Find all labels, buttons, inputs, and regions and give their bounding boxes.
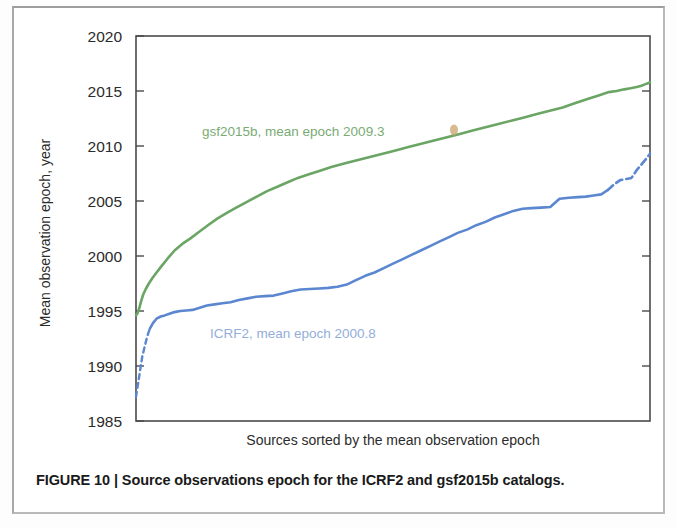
y-axis-ticks-left xyxy=(136,36,144,421)
y-tick-label-2015: 2015 xyxy=(88,83,122,100)
y-axis-ticks-right xyxy=(642,91,650,366)
epoch-line-chart: Mean observation epoch, year 2020 2015 2… xyxy=(14,8,663,458)
figure-caption-text: Source observations epoch for the ICRF2 … xyxy=(118,472,565,488)
figure-caption: FIGURE 10 | Source observations epoch fo… xyxy=(36,470,646,491)
chart-area: Mean observation epoch, year 2020 2015 2… xyxy=(14,8,663,458)
series-line-icrf2-dashed-tail xyxy=(608,154,650,190)
series-line-icrf2 xyxy=(150,190,608,329)
figure-caption-label: FIGURE 10 | xyxy=(36,472,118,488)
y-tick-label-2010: 2010 xyxy=(88,138,123,155)
series-line-icrf2-dashed-head xyxy=(136,329,150,397)
y-tick-label-2005: 2005 xyxy=(88,193,122,210)
plot-frame xyxy=(136,36,650,421)
series-line-gsf2015b xyxy=(136,82,650,315)
y-axis-title: Mean observation epoch, year xyxy=(37,138,53,327)
y-tick-label-1985: 1985 xyxy=(88,413,122,430)
icrf2-annotation: ICRF2, mean epoch 2000.8 xyxy=(210,326,376,341)
y-tick-labels: 2020 2015 2010 2005 2000 1995 1990 1985 xyxy=(88,28,123,430)
y-tick-label-1990: 1990 xyxy=(88,358,123,375)
figure-panel: Mean observation epoch, year 2020 2015 2… xyxy=(12,6,665,514)
gsf2015b-annotation: gsf2015b, mean epoch 2009.3 xyxy=(202,124,384,139)
scanned-page: Mean observation epoch, year 2020 2015 2… xyxy=(0,0,677,528)
x-axis-title: Sources sorted by the mean observation e… xyxy=(246,432,539,448)
scan-speck-artifact xyxy=(450,125,458,136)
y-tick-label-2020: 2020 xyxy=(88,28,123,45)
y-tick-label-1995: 1995 xyxy=(88,303,122,320)
y-tick-label-2000: 2000 xyxy=(88,248,123,265)
